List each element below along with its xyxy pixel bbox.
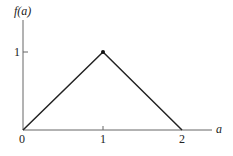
x-axis-label: a [216,123,222,135]
y-tick-label-1: 1 [14,46,20,58]
x-tick-label-0: 0 [19,133,25,145]
y-axis-label: f(a) [14,5,31,17]
x-tick-label-2: 2 [179,133,185,145]
x-tick-label-1: 1 [100,133,106,145]
triangle-line [23,52,182,130]
plot-area [0,0,233,156]
peak-marker [101,50,105,54]
